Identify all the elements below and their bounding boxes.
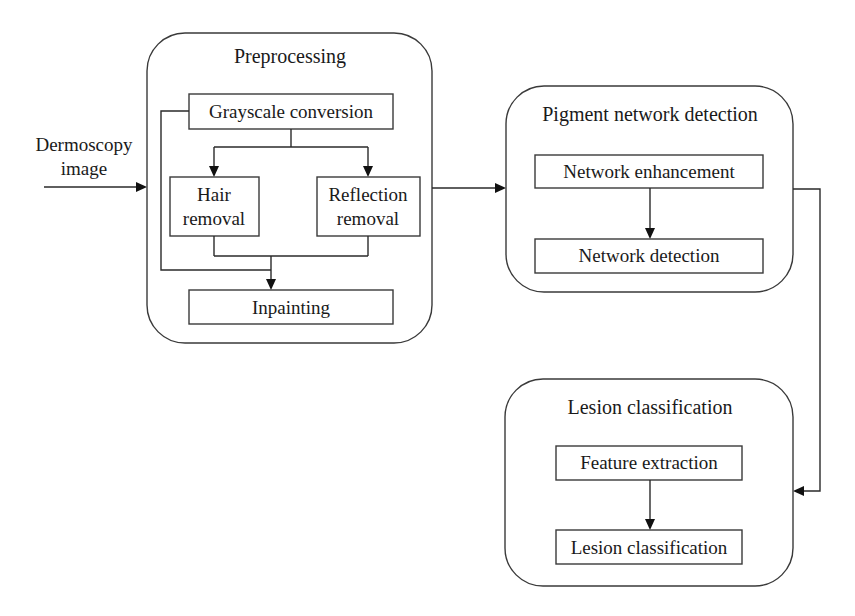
pigment-title: Pigment network detection bbox=[542, 103, 758, 126]
reflection-removal-label-1: Reflection bbox=[328, 184, 408, 205]
group-lesion-classification: Lesion classification Feature extraction… bbox=[505, 379, 793, 586]
feature-extraction-label: Feature extraction bbox=[580, 452, 718, 473]
grayscale-conversion-label: Grayscale conversion bbox=[209, 101, 374, 122]
network-detection-label: Network detection bbox=[579, 245, 720, 266]
to-hair-arrowhead bbox=[209, 166, 219, 177]
input-arrowhead bbox=[136, 182, 147, 192]
lesion-title: Lesion classification bbox=[568, 396, 733, 418]
to-inpainting-arrowhead bbox=[266, 279, 276, 290]
hair-removal-label-2: removal bbox=[183, 208, 245, 229]
enh-to-det-arrowhead bbox=[645, 228, 655, 239]
input-label-line-2: image bbox=[61, 158, 107, 179]
input-label-line-1: Dermoscopy bbox=[35, 134, 133, 155]
to-reflection-arrowhead bbox=[363, 166, 373, 177]
pigment-to-lesion-line bbox=[793, 189, 820, 491]
group-pigment-network-detection: Pigment network detection Network enhanc… bbox=[506, 86, 793, 292]
pigment-to-lesion-arrowhead bbox=[793, 486, 804, 496]
reflection-removal-label-2: removal bbox=[337, 208, 399, 229]
preprocessing-title: Preprocessing bbox=[234, 45, 346, 68]
group-preprocessing: Preprocessing Grayscale conversion Hair … bbox=[147, 33, 432, 343]
flow-diagram: Dermoscopy image Preprocessing Grayscale… bbox=[0, 0, 855, 616]
feat-to-class-arrowhead bbox=[645, 519, 655, 530]
lesion-classification-label: Lesion classification bbox=[571, 537, 728, 558]
diagram-canvas: Dermoscopy image Preprocessing Grayscale… bbox=[0, 0, 855, 616]
inpainting-label: Inpainting bbox=[252, 297, 331, 318]
hair-removal-label-1: Hair bbox=[197, 184, 231, 205]
input-node: Dermoscopy image bbox=[35, 134, 147, 192]
preproc-to-pigment-arrowhead bbox=[495, 183, 506, 193]
network-enhancement-label: Network enhancement bbox=[563, 161, 735, 182]
